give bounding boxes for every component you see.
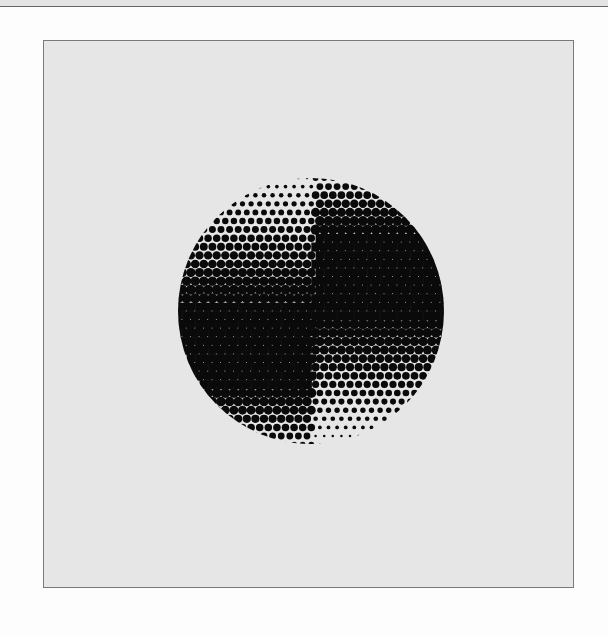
halftone-solid-cell (419, 234, 428, 243)
halftone-dot (350, 354, 359, 363)
halftone-dot (328, 208, 337, 217)
halftone-dot (394, 390, 401, 397)
halftone-dot (351, 390, 358, 397)
halftone-dot (283, 201, 288, 206)
halftone-dot (277, 260, 286, 269)
halftone-hole (448, 319, 450, 321)
halftone-dot (242, 397, 251, 406)
halftone-dot (262, 193, 267, 198)
halftone-dot (330, 175, 336, 181)
halftone-dot (238, 268, 247, 277)
halftone-dot (321, 381, 328, 388)
halftone-solid-cell (436, 286, 445, 295)
halftone-dot (196, 234, 203, 241)
halftone-dot (316, 354, 325, 363)
halftone-dot (289, 177, 292, 180)
halftone-dot (428, 372, 436, 380)
halftone-dot (324, 354, 333, 363)
halftone-dot (303, 243, 311, 251)
halftone-dot (272, 406, 281, 415)
halftone-dot (352, 408, 357, 413)
halftone-dot (303, 415, 311, 423)
halftone-dot (289, 388, 299, 398)
halftone-dot (276, 276, 286, 286)
halftone-dot (377, 408, 382, 413)
halftone-dot (255, 388, 265, 398)
halftone-dot (375, 337, 384, 346)
halftone-dot (304, 226, 311, 233)
halftone-dot (217, 260, 226, 269)
halftone-dot (294, 397, 303, 406)
halftone-dot (294, 415, 302, 423)
halftone-dot (325, 390, 332, 397)
halftone-dot (329, 381, 336, 388)
halftone-dot (195, 251, 203, 259)
halftone-dot (251, 276, 261, 286)
halftone-dot (329, 191, 337, 199)
halftone-dot (406, 345, 415, 354)
halftone-dot (377, 390, 384, 397)
halftone-dot (332, 337, 341, 346)
halftone-dot (221, 268, 230, 277)
halftone-solid-cell (182, 363, 191, 372)
halftone-dot (270, 209, 276, 215)
halftone-dot (348, 416, 353, 421)
halftone-dot (337, 363, 345, 371)
halftone-dot (334, 408, 339, 413)
halftone-dot (368, 390, 375, 397)
halftone-dot (306, 285, 316, 295)
halftone-dot (305, 193, 310, 198)
halftone-dot (354, 208, 363, 217)
halftone-dot (393, 337, 402, 346)
halftone-dot (342, 183, 349, 190)
halftone-dot (336, 443, 338, 445)
halftone-dot (208, 260, 217, 269)
halftone-dot (397, 208, 406, 217)
halftone-dot (229, 388, 239, 398)
halftone-dot (203, 388, 213, 398)
halftone-dot (256, 424, 264, 432)
halftone-dot (266, 201, 271, 206)
halftone-dot (368, 372, 376, 380)
halftone-dot (302, 397, 311, 406)
halftone-dot (278, 433, 285, 440)
halftone-dot (213, 218, 219, 224)
halftone-dot (280, 177, 283, 180)
halftone-dot (264, 268, 273, 277)
halftone-dot (346, 191, 354, 199)
halftone-hole (444, 293, 446, 295)
halftone-dot (299, 251, 307, 259)
halftone-dot (290, 268, 299, 277)
halftone-dot (367, 216, 377, 226)
halftone-dot (209, 226, 216, 233)
halftone-dot (427, 337, 436, 346)
halftone-dot (346, 381, 353, 388)
halftone-dot (345, 208, 354, 217)
halftone-dot (384, 216, 394, 226)
halftone-dot (281, 285, 291, 295)
halftone-dot (264, 406, 273, 415)
halftone-dot (386, 408, 391, 413)
halftone-hole (190, 371, 192, 373)
halftone-dot (225, 276, 235, 286)
halftone-dot (372, 381, 379, 388)
halftone-dot (285, 260, 294, 269)
halftone-dot (269, 433, 276, 440)
halftone-dot (251, 415, 259, 423)
halftone-dot (286, 415, 294, 423)
halftone-dot (308, 442, 314, 448)
halftone-dot (380, 345, 389, 354)
halftone-dot (385, 372, 393, 380)
halftone-solid-cell (440, 294, 449, 303)
halftone-dot (182, 260, 191, 269)
halftone-dot (251, 397, 260, 406)
halftone-dot (312, 363, 320, 371)
halftone-solid-cell (436, 268, 445, 277)
halftone-dot (218, 226, 225, 233)
halftone-dot (410, 337, 419, 346)
halftone-dot (212, 388, 222, 398)
halftone-hole (431, 250, 433, 252)
halftone-dot (295, 226, 302, 233)
halftone-dot (204, 251, 212, 259)
halftone-hole (448, 302, 450, 304)
